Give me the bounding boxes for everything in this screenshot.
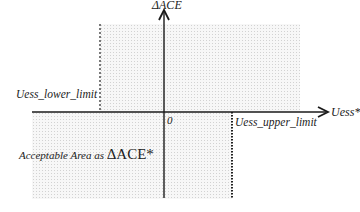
y-axis-label: ΔACE xyxy=(152,0,182,11)
lower-limit-label: Uess_lower_limit xyxy=(16,89,97,101)
upper-limit-label: Uess_upper_limit xyxy=(235,117,317,129)
acceptable-area-label: Acceptable Area as ΔACE* xyxy=(19,147,154,162)
acceptable-area-symbol: ΔACE* xyxy=(107,146,154,162)
origin-label: 0 xyxy=(167,115,173,126)
x-axis-label: Uess* xyxy=(331,106,360,118)
acceptable-area-text: Acceptable Area as xyxy=(19,149,107,161)
